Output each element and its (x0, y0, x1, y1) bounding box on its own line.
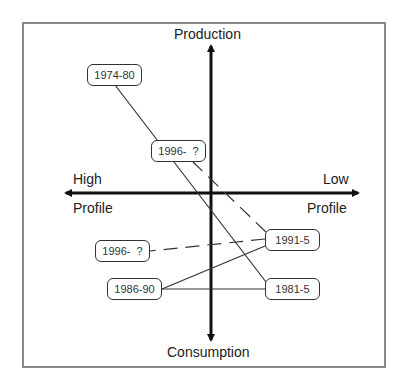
node-1996-upper: 1996- ? (151, 140, 206, 162)
axis-label-low: Low (323, 171, 349, 187)
diagram-lines (0, 0, 410, 386)
node-1974-80: 1974-80 (87, 64, 142, 86)
node-1986-90: 1986-90 (107, 278, 162, 300)
axis-label-low-profile: Profile (307, 200, 347, 216)
node-1996-lower: 1996- ? (95, 240, 150, 262)
axis-label-production: Production (174, 26, 241, 42)
edge-1991-to-1996-upper (193, 162, 266, 232)
axis-label-high: High (73, 171, 102, 187)
axis-label-consumption: Consumption (167, 344, 250, 360)
axis-label-high-profile: Profile (73, 200, 113, 216)
node-1991-5: 1991-5 (265, 229, 320, 251)
node-1981-5: 1981-5 (265, 278, 320, 300)
edge-1986-to-1991 (162, 246, 265, 289)
edge-1991-to-1996-lower (150, 239, 265, 251)
